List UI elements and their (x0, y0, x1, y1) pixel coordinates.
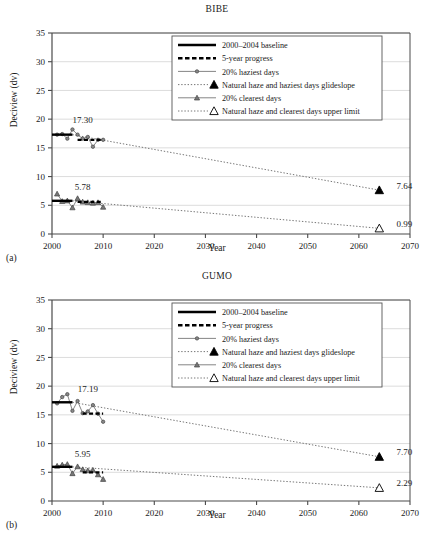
legend-item-label: 20% haziest days (222, 335, 279, 344)
data-point-circle (76, 399, 79, 402)
y-tick-label: 15 (36, 143, 46, 153)
y-tick-label: 25 (36, 86, 46, 96)
data-point-circle (195, 337, 198, 340)
data-point-triangle (55, 191, 60, 196)
plot-group: 0510152025303520002010202020302040205020… (36, 28, 420, 251)
data-point-triangle (75, 196, 80, 201)
y-tick-label: 20 (36, 114, 46, 124)
legend-item-label: Natural haze and clearest days upper lim… (222, 374, 360, 383)
data-point-circle (66, 137, 69, 140)
figure-container: BIBE Deciview (dv) Year (a) 051015202530… (0, 0, 434, 534)
data-point-circle (71, 409, 74, 412)
y-tick-label: 35 (36, 295, 46, 305)
x-tick-label: 2050 (299, 241, 318, 251)
value-annotation: 5.95 (75, 449, 91, 459)
x-tick-label: 2000 (43, 508, 62, 518)
data-point-circle (101, 420, 104, 423)
data-point-circle (71, 128, 74, 131)
x-tick-label: 2030 (196, 508, 215, 518)
x-tick-label: 2060 (350, 508, 369, 518)
legend-item-label: 5-year progress (222, 54, 273, 63)
y-tick-label: 10 (36, 439, 46, 449)
x-tick-label: 2030 (196, 241, 215, 251)
data-point-circle (86, 135, 89, 138)
x-tick-label: 2000 (43, 241, 62, 251)
x-tick-label: 2040 (248, 241, 267, 251)
data-point-circle (61, 395, 64, 398)
glideslope-line (72, 201, 379, 229)
data-point-circle (76, 133, 79, 136)
haziest-days-line (57, 394, 103, 422)
legend-item-label: 2000–2004 baseline (222, 308, 288, 317)
x-tick-label: 2020 (145, 508, 164, 518)
data-point-circle (195, 70, 198, 73)
x-tick-label: 2010 (94, 241, 113, 251)
x-tick-label: 2050 (299, 508, 318, 518)
glideslope-line (72, 467, 379, 488)
data-point-circle (91, 403, 94, 406)
value-annotation: 0.99 (397, 219, 413, 229)
x-tick-label: 2020 (145, 241, 164, 251)
value-annotation: 17.30 (73, 115, 94, 125)
y-tick-label: 35 (36, 28, 46, 38)
value-annotation: 17.19 (78, 384, 99, 394)
y-tick-label: 15 (36, 410, 46, 420)
glideslope-line (72, 135, 379, 190)
x-tick-label: 2070 (401, 241, 420, 251)
x-tick-label: 2070 (401, 508, 420, 518)
glideslope-line (72, 402, 379, 456)
data-point-circle (101, 138, 104, 141)
data-point-circle (66, 392, 69, 395)
haziest-days-line (57, 129, 103, 146)
y-tick-label: 5 (41, 200, 46, 210)
data-point-circle (86, 410, 89, 413)
data-point-triangle (75, 464, 80, 469)
y-tick-label: 20 (36, 381, 46, 391)
y-tick-label: 25 (36, 353, 46, 363)
plot-area-gumo: 0510152025303520002010202020302040205020… (0, 267, 434, 534)
legend-item-label: 20% clearest days (222, 94, 281, 103)
y-tick-label: 10 (36, 172, 46, 182)
legend-item-label: Natural haze and clearest days upper lim… (222, 107, 360, 116)
data-point-circle (91, 145, 94, 148)
value-annotation: 7.70 (397, 447, 413, 457)
plot-area-bibe: 0510152025303520002010202020302040205020… (0, 0, 434, 267)
data-point-triangle (80, 467, 85, 472)
value-annotation: 2.29 (397, 478, 413, 488)
chart-panel-gumo: GUMO Deciview (dv) Year (b) 051015202530… (0, 267, 434, 534)
legend-item-label: 20% haziest days (222, 68, 279, 77)
glideslope-endpoint-marker (375, 453, 383, 461)
plot-group: 0510152025303520002010202020302040205020… (36, 295, 420, 518)
y-tick-label: 30 (36, 324, 46, 334)
x-tick-label: 2010 (94, 508, 113, 518)
legend-item-label: Natural haze and haziest days glideslope (222, 348, 355, 357)
y-tick-label: 0 (41, 496, 46, 506)
legend-item-label: 20% clearest days (222, 361, 281, 370)
legend-item-label: 2000–2004 baseline (222, 41, 288, 50)
legend-item-label: Natural haze and haziest days glideslope (222, 81, 355, 90)
value-annotation: 7.64 (397, 181, 413, 191)
x-tick-label: 2040 (248, 508, 267, 518)
value-annotation: 5.78 (75, 182, 91, 192)
chart-panel-bibe: BIBE Deciview (dv) Year (a) 051015202530… (0, 0, 434, 267)
legend-item-label: 5-year progress (222, 321, 273, 330)
y-tick-label: 30 (36, 57, 46, 67)
glideslope-endpoint-marker (375, 186, 383, 194)
y-tick-label: 0 (41, 229, 46, 239)
y-tick-label: 5 (41, 467, 46, 477)
x-tick-label: 2060 (350, 241, 369, 251)
